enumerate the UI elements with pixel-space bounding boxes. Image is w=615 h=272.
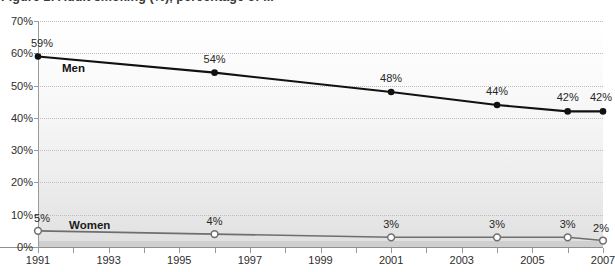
x-axis-tick-mark: [73, 248, 74, 253]
data-point-label: 54%: [204, 53, 226, 65]
data-point-label: 5%: [34, 212, 50, 224]
x-axis-tick-label: 1995: [167, 254, 191, 266]
data-point-marker: [564, 234, 571, 241]
data-point-marker: [35, 53, 42, 60]
x-axis-tick-mark: [532, 248, 533, 253]
x-axis-tick-label: 1993: [96, 254, 120, 266]
data-point-marker: [211, 231, 218, 238]
x-axis-tick-label: 2003: [450, 254, 474, 266]
x-axis-tick-label: 1991: [26, 254, 50, 266]
x-axis-tick-mark: [426, 248, 427, 253]
figure-title-strip: Figure 1: Adult smoking (%), percentage …: [0, 0, 603, 9]
data-point-label: 42%: [590, 91, 612, 103]
series-line: [38, 57, 603, 112]
y-axis-tick-label: 30%: [0, 144, 33, 156]
x-axis-tick-mark: [109, 248, 110, 253]
x-axis-tick-mark: [215, 248, 216, 253]
x-axis-tick-label: 2001: [379, 254, 403, 266]
x-axis-tick-mark: [250, 248, 251, 253]
x-axis-tick-mark: [285, 248, 286, 253]
data-point-label: 3%: [489, 218, 505, 230]
data-point-label: 59%: [31, 37, 53, 49]
data-point-label: 48%: [380, 72, 402, 84]
data-point-marker: [388, 234, 395, 241]
y-axis-tick-label: 20%: [0, 176, 33, 188]
y-axis-tick-label: 70%: [0, 15, 33, 27]
y-axis-tick-label: 0%: [0, 241, 33, 253]
data-point-marker: [35, 227, 42, 234]
x-axis-tick-label: 1997: [238, 254, 262, 266]
data-point-label: 42%: [557, 91, 579, 103]
data-point-marker: [494, 102, 501, 109]
data-point-marker: [600, 237, 607, 244]
page-title: Figure 1: Adult smoking (%), percentage …: [1, 0, 274, 4]
y-axis-tick-label: 10%: [0, 209, 33, 221]
series-women: [35, 227, 607, 243]
y-axis-tick-label: 60%: [0, 47, 33, 59]
data-point-label: 4%: [207, 215, 223, 227]
x-axis-tick-mark: [568, 248, 569, 253]
data-point-marker: [211, 69, 218, 76]
data-point-marker: [600, 108, 607, 115]
data-point-label: 3%: [560, 218, 576, 230]
x-axis-tick-mark: [38, 248, 39, 253]
series-line: [38, 231, 603, 241]
x-axis-tick-mark: [462, 248, 463, 253]
x-axis-tick-mark: [603, 248, 604, 253]
x-axis-tick-label: 2007: [591, 254, 615, 266]
x-axis-tick-mark: [356, 248, 357, 253]
data-point-marker: [564, 108, 571, 115]
y-axis-tick-label: 50%: [0, 80, 33, 92]
data-point-marker: [388, 89, 395, 96]
x-axis-tick-mark: [144, 248, 145, 253]
x-axis-tick-mark: [179, 248, 180, 253]
data-point-label: 3%: [383, 218, 399, 230]
x-axis-tick-mark: [321, 248, 322, 253]
x-axis-tick-mark: [497, 248, 498, 253]
series-label-women: Women: [69, 219, 110, 231]
series-label-men: Men: [62, 62, 85, 74]
series-men: [35, 53, 607, 114]
data-point-label: 44%: [486, 85, 508, 97]
data-point-marker: [494, 234, 501, 241]
y-axis-tick-label: 40%: [0, 112, 33, 124]
x-axis-tick-label: 2005: [520, 254, 544, 266]
data-series-layer: [38, 21, 603, 248]
data-point-label: 2%: [593, 222, 609, 234]
x-axis-tick-label: 1999: [308, 254, 332, 266]
x-axis-tick-mark: [391, 248, 392, 253]
